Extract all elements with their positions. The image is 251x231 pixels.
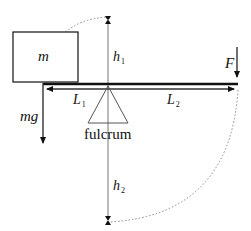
h1-label: h1 [113, 50, 125, 66]
l1-label: L1 [73, 93, 86, 109]
force-label: F [225, 56, 234, 71]
h2-label: h2 [113, 179, 125, 195]
h2-arrowhead-icon [105, 216, 111, 225]
lower-swing-arc [110, 90, 238, 222]
fulcrum-label: fulcrum [84, 127, 131, 142]
l2-label: L2 [167, 93, 180, 109]
weight-label: mg [20, 109, 38, 124]
mass-label: m [38, 49, 49, 64]
